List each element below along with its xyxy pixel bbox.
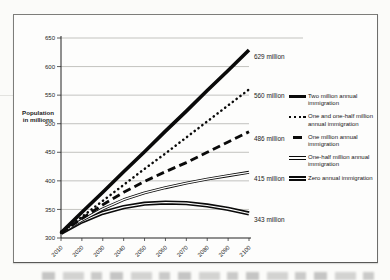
x-tick-label: 2010 xyxy=(50,244,63,257)
x-tick-label: 2030 xyxy=(92,244,105,257)
x-tick-label: 2050 xyxy=(134,244,147,257)
legend-item: One and one-half million annual immigrat… xyxy=(289,113,384,127)
cropped-caption-artifact xyxy=(42,272,376,280)
y-axis-title: Population in millions xyxy=(20,109,56,123)
x-tick-label: 2080 xyxy=(197,244,210,257)
x-tick-label: 2040 xyxy=(113,244,126,257)
legend-label: Two million annual immigration xyxy=(308,93,382,107)
legend-item: Two million annual immigration xyxy=(289,93,384,107)
y-tick-label: 450 xyxy=(45,149,56,155)
legend-item: One million annual immigration xyxy=(289,134,384,148)
x-tick-label: 2100 xyxy=(238,244,251,257)
legend-swatch-dashed xyxy=(289,136,306,139)
y-tick-label: 650 xyxy=(45,35,56,41)
series-end-label: 560 million xyxy=(254,92,285,99)
figure-frame: 6506005505004504003503002010202020302040… xyxy=(13,14,378,263)
series-line-dotted xyxy=(61,89,249,232)
legend-label: One and one-half million annual immigrat… xyxy=(308,113,382,127)
series-end-label: 343 million xyxy=(254,216,285,223)
series-end-label: 629 million xyxy=(254,53,285,60)
y-tick-label: 600 xyxy=(45,64,56,70)
legend-swatch-double-thick xyxy=(289,176,306,181)
legend-swatch-solid-thick xyxy=(289,95,306,98)
legend-label: Zero annual immigration xyxy=(308,175,382,182)
y-tick-label: 550 xyxy=(45,92,56,98)
x-tick-label: 2020 xyxy=(71,244,84,257)
x-tick-label: 2090 xyxy=(217,244,230,257)
legend-swatch-double-thin xyxy=(289,156,306,160)
series-end-label: 486 million xyxy=(254,135,285,142)
scan-edge-artifact xyxy=(0,95,13,96)
y-tick-label: 300 xyxy=(45,235,56,241)
series-line-solid-thick xyxy=(61,50,249,233)
legend-item: Zero annual immigration xyxy=(289,175,384,182)
legend-label: One million annual immigration xyxy=(308,134,382,148)
legend-label: One-half million annual immigration xyxy=(308,154,382,168)
page: { "chart_data": { "type": "line", "title… xyxy=(0,0,390,280)
series-end-label: 415 million xyxy=(254,175,285,182)
x-tick-label: 2070 xyxy=(176,244,189,257)
y-tick-label: 350 xyxy=(45,207,56,213)
legend: Two million annual immigrationOne and on… xyxy=(289,93,384,188)
y-tick-label: 400 xyxy=(45,178,56,184)
x-tick-label: 2060 xyxy=(155,244,168,257)
legend-swatch-dotted xyxy=(289,116,306,118)
legend-item: One-half million annual immigration xyxy=(289,154,384,168)
